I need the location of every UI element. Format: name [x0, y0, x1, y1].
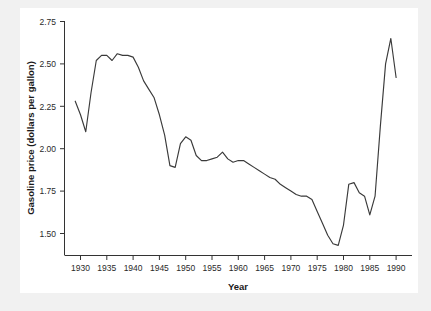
y-tick-label-275: 2.75: [39, 17, 56, 27]
x-tick-label-1980: 1980: [334, 263, 353, 273]
x-tick-label-1955: 1955: [203, 263, 222, 273]
x-tick-label-1930: 1930: [71, 263, 90, 273]
x-tick-label-1935: 1935: [97, 263, 116, 273]
x-tick-label-1985: 1985: [360, 263, 379, 273]
chart-figure: 2.75 2.50 2.25 2.00 1.75 1.50 1930 1935 …: [0, 0, 431, 311]
gasoline-price-line-chart: 2.75 2.50 2.25 2.00 1.75 1.50 1930 1935 …: [0, 0, 431, 311]
x-tick-label-1950: 1950: [176, 263, 195, 273]
x-axis-title: Year: [228, 281, 248, 292]
x-tick-label-1975: 1975: [308, 263, 327, 273]
y-axis-ticks: [60, 22, 65, 234]
x-tick-label-1990: 1990: [387, 263, 406, 273]
x-axis-ticks: [81, 256, 397, 261]
data-series-line-gasoline-price: [75, 38, 396, 245]
y-tick-label-250: 2.50: [39, 59, 56, 69]
y-tick-label-225: 2.25: [39, 102, 56, 112]
y-axis-title: Gasoline price (dollars per gallon): [25, 61, 36, 215]
x-tick-label-1965: 1965: [255, 263, 274, 273]
x-tick-label-1960: 1960: [229, 263, 248, 273]
x-tick-label-1940: 1940: [124, 263, 143, 273]
y-tick-label-175: 1.75: [39, 186, 56, 196]
y-tick-label-150: 1.50: [39, 229, 56, 239]
x-tick-label-1945: 1945: [150, 263, 169, 273]
y-tick-label-200: 2.00: [39, 144, 56, 154]
x-tick-label-1970: 1970: [281, 263, 300, 273]
